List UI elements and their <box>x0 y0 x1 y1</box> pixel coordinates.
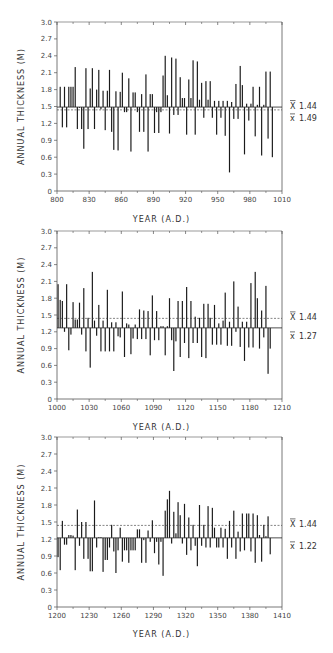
thickness-bar <box>233 281 234 327</box>
y-tick-label: 2.1 <box>41 69 52 77</box>
y-tick-label: 1.8 <box>41 502 52 510</box>
x-tick-label: 1000 <box>48 404 66 412</box>
y-tick-label: 2.7 <box>41 244 52 252</box>
y-tick-label: 0 <box>48 396 52 404</box>
thickness-bar <box>77 107 78 129</box>
thickness-bar <box>147 311 148 328</box>
x-tick-label: 1290 <box>145 612 163 620</box>
thickness-bar <box>237 107 238 119</box>
thickness-bar <box>130 538 131 550</box>
thickness-bar <box>197 538 198 566</box>
thickness-bar <box>197 61 198 107</box>
overall-mean-label: 1.44 <box>299 313 317 322</box>
thickness-bar <box>92 272 93 328</box>
x-tick-label: 980 <box>243 196 256 204</box>
thickness-bar <box>130 107 131 152</box>
y-tick-label: 1.2 <box>41 536 52 544</box>
thickness-bar <box>248 328 249 348</box>
thickness-bar <box>188 328 189 358</box>
y-tick-label: 1.2 <box>41 328 52 336</box>
thickness-bar <box>167 499 168 538</box>
thickness-bar <box>145 538 146 563</box>
thickness-bar <box>85 522 86 538</box>
thickness-bar <box>184 98 185 107</box>
thickness-bar <box>115 322 116 328</box>
y-axis-title: ANNUAL THICKNESS (M) <box>17 257 26 374</box>
thickness-bar <box>244 538 245 550</box>
x-tick-label: 1200 <box>48 612 66 620</box>
thickness-bar <box>57 538 58 557</box>
thickness-bar <box>242 322 243 328</box>
thickness-bar <box>122 538 123 562</box>
thickness-bar <box>240 328 241 347</box>
y-tick-label: 0.9 <box>41 137 52 145</box>
y-tick-label: 0.3 <box>41 379 52 387</box>
thickness-bar <box>177 301 178 328</box>
thickness-bar <box>259 328 260 349</box>
thickness-bar <box>141 538 142 563</box>
thickness-bar <box>94 107 95 129</box>
thickness-bar <box>64 538 65 545</box>
thickness-bar <box>143 107 144 132</box>
period-mean-label: 1.27 <box>299 332 317 341</box>
thickness-bar <box>83 288 84 328</box>
thickness-bar <box>132 538 133 550</box>
y-tick-label: 0.9 <box>41 345 52 353</box>
thickness-bar <box>62 301 63 328</box>
thickness-bar <box>190 301 191 328</box>
thickness-bar <box>235 328 236 332</box>
thickness-bar <box>68 87 69 107</box>
thickness-bar <box>102 538 103 572</box>
y-tick-label: 0 <box>48 604 52 612</box>
y-tick-label: 0.3 <box>41 171 52 179</box>
thickness-bar <box>120 328 121 338</box>
thickness-bar <box>205 81 206 107</box>
thickness-bar <box>255 272 256 328</box>
thickness-bar <box>180 515 181 538</box>
thickness-bar <box>96 538 97 548</box>
thickness-bar <box>210 538 211 548</box>
thickness-bar <box>160 107 161 112</box>
y-tick-label: 2.4 <box>41 468 53 476</box>
thickness-bar <box>139 107 140 132</box>
thickness-bar <box>195 107 196 135</box>
x-tick-label: 1090 <box>145 404 163 412</box>
thickness-bar <box>90 538 91 571</box>
thickness-bar <box>192 328 193 343</box>
thickness-bar <box>152 520 153 538</box>
thickness-bar <box>85 68 86 107</box>
thickness-bar <box>169 298 170 328</box>
thickness-bar <box>62 521 63 538</box>
thickness-bar <box>184 504 185 538</box>
thickness-bar <box>130 328 131 354</box>
thickness-bar <box>92 538 93 571</box>
thickness-bar <box>222 101 223 107</box>
thickness-bar <box>220 328 221 345</box>
thickness-bar <box>175 533 176 538</box>
x-tick-label: 920 <box>179 196 192 204</box>
thickness-bar <box>175 59 176 107</box>
thickness-bar <box>64 328 65 332</box>
thickness-bar <box>158 107 159 133</box>
period-mean-symbol: x <box>290 114 295 123</box>
thickness-bar <box>173 328 174 371</box>
y-tick-label: 1.8 <box>41 86 52 94</box>
thickness-bar <box>115 91 116 107</box>
thickness-bar <box>270 538 271 554</box>
thickness-bar <box>109 538 110 548</box>
thickness-bar <box>141 94 142 107</box>
thickness-bar <box>199 318 200 328</box>
y-tick-label: 3.0 <box>41 434 52 442</box>
thickness-bar <box>147 531 148 538</box>
thickness-bar <box>83 538 84 559</box>
thickness-bar <box>120 92 121 107</box>
period-mean-label: 1.49 <box>299 114 317 123</box>
thickness-bar <box>272 107 273 157</box>
x-tick-label: 1410 <box>273 612 291 620</box>
y-tick-label: 2.4 <box>41 261 53 269</box>
overall-mean-symbol: X <box>290 102 296 111</box>
thickness-bar <box>186 287 187 328</box>
thickness-bar <box>128 538 129 563</box>
x-tick-label: 1260 <box>112 612 130 620</box>
y-tick-label: 0.9 <box>41 553 52 561</box>
